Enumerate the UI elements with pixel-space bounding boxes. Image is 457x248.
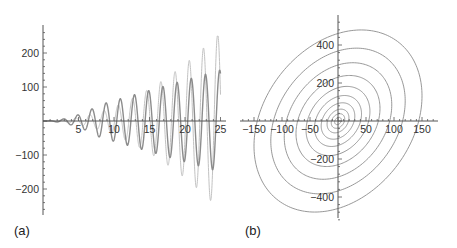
figure-canvas: 510152025200100−100−200 −150−100−5050100… bbox=[0, 0, 457, 248]
y-tick-label-b: 400 bbox=[316, 39, 334, 51]
plot-a: 510152025200100−100−200 bbox=[15, 25, 226, 215]
y-tick-label-b: 200 bbox=[316, 77, 334, 89]
panel-label-a: (a) bbox=[14, 223, 30, 238]
x-tick-label-b: −150 bbox=[242, 123, 266, 135]
x-tick-label-b: 50 bbox=[360, 123, 372, 135]
y-tick-label-a: −200 bbox=[15, 183, 39, 195]
y-tick-label-b: −200 bbox=[310, 153, 334, 165]
y-tick-label-a: 200 bbox=[21, 47, 39, 59]
x-tick-label-b: −50 bbox=[301, 123, 319, 135]
x-tick-label-a: 25 bbox=[215, 123, 227, 135]
x-tick-label-a: 10 bbox=[108, 123, 120, 135]
plot-b: −150−100−5050100150400200−200−400 bbox=[240, 15, 438, 220]
x-tick-label-b: 150 bbox=[413, 123, 431, 135]
y-tick-label-b: −400 bbox=[310, 191, 334, 203]
y-tick-label-a: 100 bbox=[21, 81, 39, 93]
x-tick-label-b: −100 bbox=[270, 123, 294, 135]
x-tick-label-b: 100 bbox=[385, 123, 403, 135]
plot-a-curves bbox=[43, 36, 221, 201]
x-tick-label-a: 20 bbox=[179, 123, 191, 135]
y-tick-label-a: −100 bbox=[15, 149, 39, 161]
x-tick-label-a: 5 bbox=[76, 123, 82, 135]
panel-label-b: (b) bbox=[245, 223, 261, 238]
x-tick-label-a: 15 bbox=[144, 123, 156, 135]
